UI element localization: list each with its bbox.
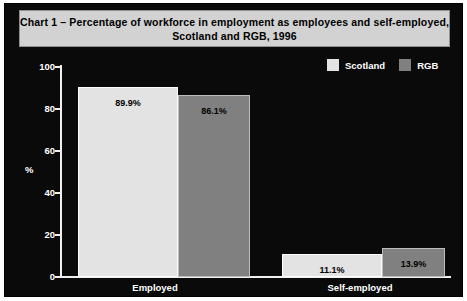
- bar-selfemployed-scotland[interactable]: 11.1%: [282, 254, 382, 277]
- bar-label-selfemployed-rgb: 13.9%: [383, 259, 444, 269]
- x-category-label-self-employed: Self-employed: [328, 282, 393, 293]
- y-tick-label-100: 100: [25, 61, 55, 72]
- plot-area: 89.9% 86.1% 11.1% 13.9%: [60, 66, 450, 277]
- y-axis-title: %: [25, 164, 33, 175]
- y-tick-label-0: 0: [25, 271, 55, 282]
- chart-title-line-2: Scotland and RGB, 1996: [172, 29, 297, 43]
- x-category-label-employed: Employed: [132, 282, 177, 293]
- bar-label-selfemployed-scotland: 11.1%: [283, 265, 381, 275]
- chart-panel: Chart 1 – Percentage of workforce in emp…: [4, 3, 463, 297]
- bar-employed-scotland[interactable]: 89.9%: [78, 87, 178, 277]
- y-tick-label-40: 40: [25, 187, 55, 198]
- bar-selfemployed-rgb[interactable]: 13.9%: [382, 248, 445, 277]
- chart-screenshot: Chart 1 – Percentage of workforce in emp…: [0, 0, 467, 301]
- y-tick-label-20: 20: [25, 229, 55, 240]
- bar-employed-rgb[interactable]: 86.1%: [178, 95, 250, 277]
- bar-label-employed-rgb: 86.1%: [179, 106, 249, 116]
- bar-label-employed-scotland: 89.9%: [79, 98, 177, 108]
- y-tick-label-80: 80: [25, 103, 55, 114]
- chart-title: Chart 1 – Percentage of workforce in emp…: [19, 10, 450, 47]
- chart-title-line-1: Chart 1 – Percentage of workforce in emp…: [20, 15, 449, 29]
- y-tick-label-60: 60: [25, 145, 55, 156]
